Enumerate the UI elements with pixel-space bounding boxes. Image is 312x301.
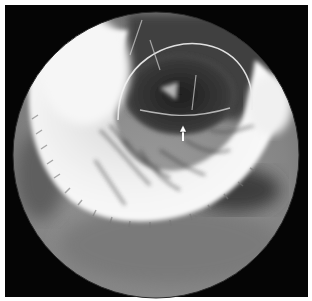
gas-filled-lumen [125,55,235,135]
fluoroscopy-field [0,0,312,301]
barium-pool-upper-left [40,15,130,125]
barium-pool-right [248,75,292,135]
radiograph [0,0,312,301]
